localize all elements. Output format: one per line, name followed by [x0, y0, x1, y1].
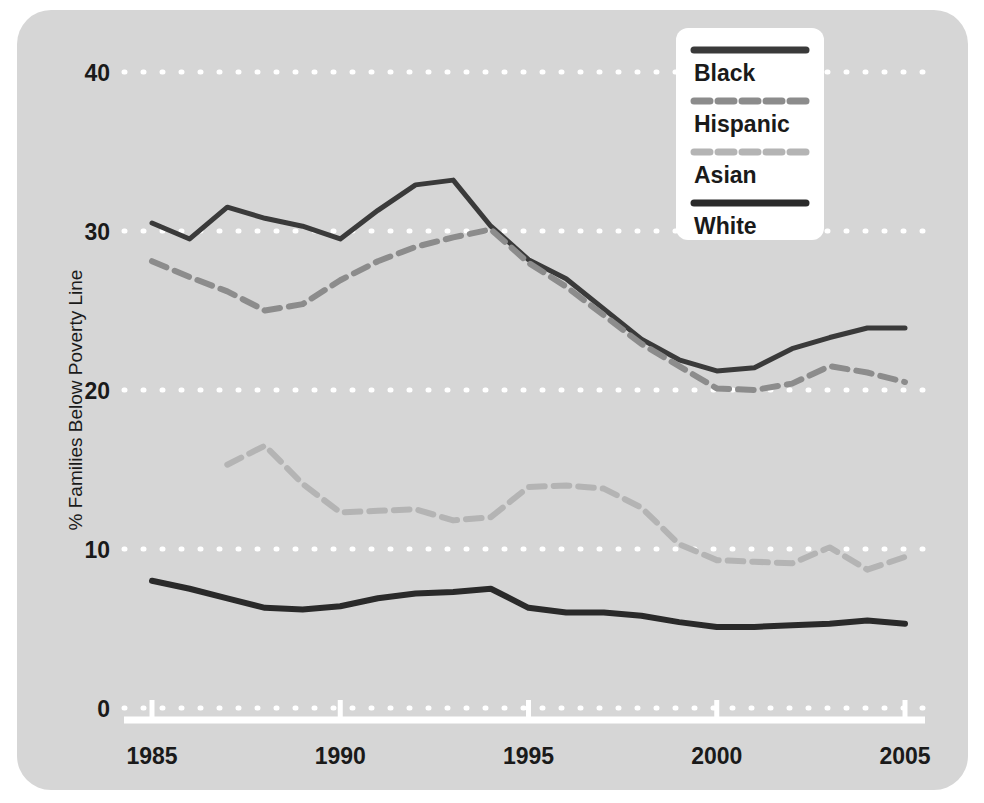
chart-root: 010203040 19851990199520002005 % Familie… — [0, 0, 984, 803]
y-tick-label-10: 10 — [84, 537, 110, 563]
legend-label-hispanic[interactable]: Hispanic — [694, 111, 790, 137]
y-tick-label-0: 0 — [97, 696, 110, 722]
x-tick-label-1985: 1985 — [126, 743, 177, 769]
x-tick-label-2000: 2000 — [691, 743, 742, 769]
x-tick-label-1995: 1995 — [503, 743, 554, 769]
y-axis-title-group: % Families Below Poverty Line — [65, 270, 86, 531]
data-series-group — [152, 180, 905, 627]
x-tick-labels-group: 19851990199520002005 — [126, 743, 930, 769]
legend: BlackHispanicAsianWhite — [676, 28, 824, 240]
legend-label-asian[interactable]: Asian — [694, 162, 757, 188]
y-tick-label-20: 20 — [84, 378, 110, 404]
series-line-hispanic — [152, 229, 905, 390]
legend-label-black[interactable]: Black — [694, 60, 756, 86]
x-tick-label-1990: 1990 — [315, 743, 366, 769]
legend-label-white[interactable]: White — [694, 213, 757, 239]
poverty-line-chart: 010203040 19851990199520002005 % Familie… — [0, 0, 984, 803]
series-line-asian — [227, 446, 905, 570]
y-tick-label-40: 40 — [84, 60, 110, 86]
y-tick-label-30: 30 — [84, 219, 110, 245]
y-axis-title: % Families Below Poverty Line — [65, 270, 86, 531]
series-line-white — [152, 581, 905, 627]
x-tick-label-2005: 2005 — [879, 743, 930, 769]
y-tick-labels-group: 010203040 — [84, 60, 110, 722]
